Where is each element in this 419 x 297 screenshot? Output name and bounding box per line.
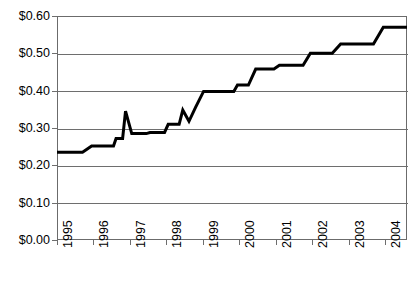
y-axis-tick-label: $0.40 xyxy=(0,85,50,98)
y-axis-tick-mark xyxy=(52,16,57,17)
x-axis-tick-label: 2000 xyxy=(244,234,257,248)
x-axis-tick-mark xyxy=(349,240,350,245)
series-line xyxy=(57,27,407,152)
x-axis-tick-mark xyxy=(385,240,386,245)
x-axis-tick-label: 2002 xyxy=(317,234,330,248)
x-axis-tick-label: 1995 xyxy=(62,234,75,248)
y-axis-tick-label: $0.00 xyxy=(0,234,50,247)
y-axis-tick-label: $0.50 xyxy=(0,47,50,60)
y-axis-tick-label: $0.60 xyxy=(0,10,50,23)
line-chart: $0.60$0.50$0.40$0.30$0.20$0.10$0.0019951… xyxy=(0,0,419,297)
x-axis-tick-mark xyxy=(130,240,131,245)
y-axis-tick-label: $0.10 xyxy=(0,197,50,210)
y-axis-tick-mark xyxy=(52,165,57,166)
x-axis-tick-label: 1999 xyxy=(208,234,221,248)
y-axis-tick-label: $0.20 xyxy=(0,159,50,172)
y-axis-tick-mark xyxy=(52,53,57,54)
x-axis-tick-label: 1997 xyxy=(135,234,148,248)
x-axis-tick-mark xyxy=(203,240,204,245)
x-axis-tick-label: 2003 xyxy=(354,234,367,248)
x-axis-tick-label: 1996 xyxy=(98,234,111,248)
x-axis-tick-mark xyxy=(276,240,277,245)
x-axis-tick-label: 2004 xyxy=(390,234,403,248)
x-axis-tick-mark xyxy=(239,240,240,245)
x-axis-tick-mark xyxy=(166,240,167,245)
x-axis-tick-mark xyxy=(93,240,94,245)
x-axis-tick-mark xyxy=(57,240,58,245)
y-axis-tick-label: $0.30 xyxy=(0,122,50,135)
y-axis-tick-mark xyxy=(52,203,57,204)
x-axis-tick-label: 2001 xyxy=(281,234,294,248)
x-axis-tick-mark xyxy=(312,240,313,245)
y-axis-tick-mark xyxy=(52,128,57,129)
y-axis-tick-mark xyxy=(52,91,57,92)
x-axis-tick-label: 1998 xyxy=(171,234,184,248)
series-layer xyxy=(57,16,407,240)
